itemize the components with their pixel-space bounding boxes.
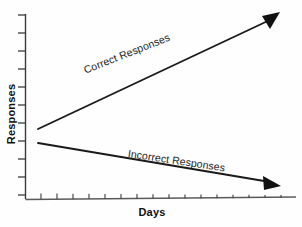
y-axis-title: Responses [5,79,17,149]
y-axis-ticks [18,15,26,195]
x-axis-title: Days [122,206,182,218]
series-arrowhead-correct-responses [262,12,280,29]
x-axis-line [26,197,297,200]
chart-plot-area [0,0,302,227]
chart-figure: Responses Days Correct Responses Incorre… [0,0,302,227]
series-arrowhead-incorrect-responses [263,176,281,190]
